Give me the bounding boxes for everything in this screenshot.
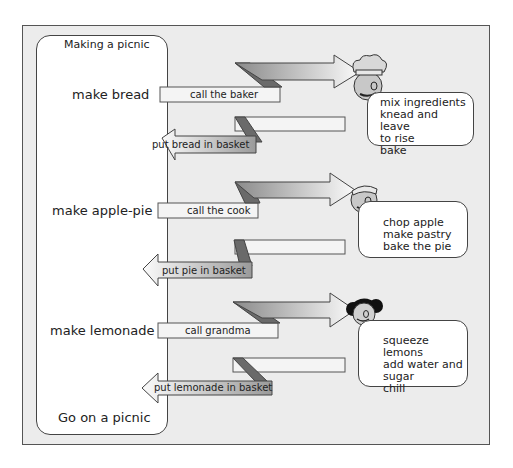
step: chill: [383, 383, 463, 395]
return-lemonade-arrow: [142, 358, 345, 403]
return-bread-label: put bread in basket: [152, 139, 249, 150]
cook-steps-bubble: chop apple make pastry bake the pie: [358, 201, 468, 258]
return-pie-label: put pie in basket: [162, 265, 246, 276]
step: bake the pie: [383, 241, 461, 253]
return-pie-arrow: [143, 240, 345, 286]
baker-steps-bubble: mix ingredients knead and leave to rise …: [367, 92, 474, 146]
grandma-steps-bubble: squeeze lemons add water and sugar chill: [358, 320, 468, 387]
return-lemonade-label: put lemonade in basket: [154, 382, 272, 393]
call-cook-label: call the cook: [187, 205, 250, 216]
step: knead and leave: [380, 109, 467, 133]
step: bake: [380, 145, 467, 157]
call-grandma-label: call grandma: [185, 325, 251, 336]
call-baker-label: call the baker: [190, 89, 258, 100]
step: squeeze lemons: [383, 335, 463, 359]
